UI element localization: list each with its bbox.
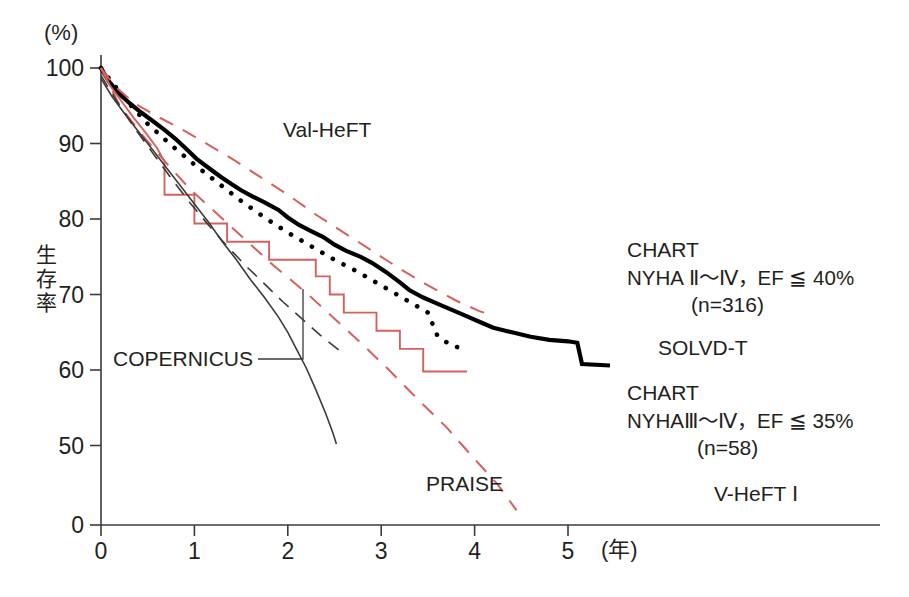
label-val-heft: Val-HeFT <box>283 118 371 141</box>
x-axis-unit: (年) <box>601 537 638 562</box>
y-axis-title-char1: 生 <box>36 243 57 267</box>
label-chart-upper-line1: CHART <box>627 238 699 261</box>
survival-curve-figure: 10090807060500 012345 (%) 生 存 率 (年) Val-… <box>0 0 909 597</box>
label-chart-lower-line2: NYHAⅢ〜Ⅳ，EF ≦ 35% <box>627 409 854 432</box>
y-axis-title-char2: 存 <box>36 267 57 291</box>
label-chart-lower-line1: CHART <box>627 381 699 404</box>
label-praise: PRAISE <box>426 472 503 495</box>
label-copernicus: COPERNICUS <box>113 347 253 370</box>
label-chart-upper-line2: NYHA Ⅱ〜Ⅳ，EF ≦ 40% <box>627 266 854 289</box>
label-solvd-t: SOLVD-T <box>658 336 748 359</box>
chart-text-layer: (%) 生 存 率 (年) Val-HeFT COPERNICUS PRAISE… <box>0 0 909 597</box>
label-chart-lower-line3: (n=58) <box>697 436 758 459</box>
label-chart-upper-line3: (n=316) <box>691 293 764 316</box>
y-axis-unit: (%) <box>44 20 78 45</box>
label-v-heft-1: V-HeFT Ⅰ <box>714 482 798 505</box>
y-axis-title-char3: 率 <box>36 291 57 315</box>
